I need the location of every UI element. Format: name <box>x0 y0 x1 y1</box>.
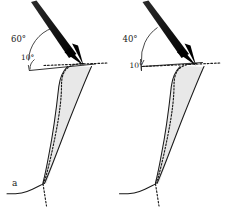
impact-angle-label: 40° <box>123 34 138 44</box>
figure-container: 60° 10° a 40° 10° <box>0 0 225 214</box>
two-panel-impact-diagram: 60° 10° a 40° 10° <box>0 0 225 214</box>
tangent-angle-label: 10° <box>21 53 35 62</box>
figure-background <box>0 0 225 214</box>
impact-angle-label: 60° <box>11 34 26 44</box>
tangent-angle-label: 10° <box>130 61 144 70</box>
panel-label-a: a <box>12 178 18 188</box>
